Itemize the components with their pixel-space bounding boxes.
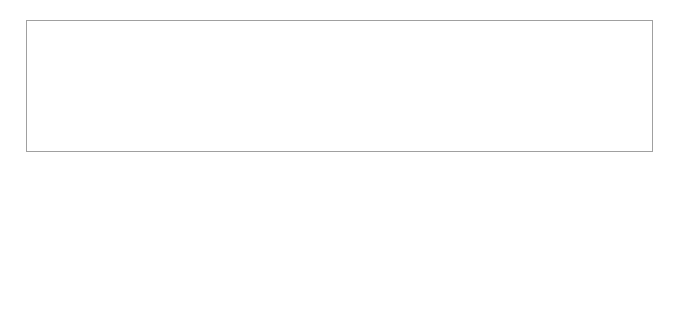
plot-border — [27, 21, 313, 152]
chart-area-border — [27, 21, 653, 152]
chart — [0, 0, 679, 331]
chart-border — [27, 21, 312, 151]
chart-outer-border — [27, 21, 313, 152]
frame — [27, 21, 313, 152]
outer-frame — [27, 21, 313, 152]
